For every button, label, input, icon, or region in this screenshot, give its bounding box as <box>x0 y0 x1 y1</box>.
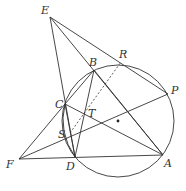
label-F: F <box>5 158 14 171</box>
label-D: D <box>65 160 75 173</box>
line-C-A <box>65 104 163 155</box>
label-A: A <box>163 157 172 170</box>
line-F-P <box>19 94 168 159</box>
label-C: C <box>55 98 64 111</box>
line-C-B <box>65 70 94 104</box>
geometry-diagram: E B R P C T S F D A <box>0 0 186 191</box>
line-F-A <box>19 155 163 159</box>
label-T: T <box>88 107 97 120</box>
line-B-A <box>94 70 163 155</box>
label-P: P <box>170 84 179 97</box>
label-E: E <box>40 4 49 17</box>
label-B: B <box>88 56 97 69</box>
line-E-P <box>50 17 168 94</box>
label-S: S <box>58 128 66 141</box>
label-R: R <box>118 48 127 61</box>
circle-center-dot <box>117 120 120 123</box>
